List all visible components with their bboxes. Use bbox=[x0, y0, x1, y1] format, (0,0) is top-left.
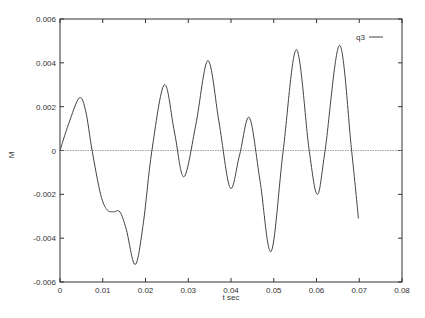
legend-label-q3: q3 bbox=[356, 33, 365, 42]
y-tick-label: -0.002 bbox=[33, 190, 56, 199]
y-tick-label: -0.004 bbox=[33, 234, 56, 243]
y-tick-label: 0.006 bbox=[36, 15, 57, 24]
x-axis-ticks: 00.010.020.030.040.050.060.070.08 bbox=[58, 19, 411, 295]
x-tick-label: 0.03 bbox=[180, 286, 196, 295]
legend: q3 bbox=[356, 33, 383, 42]
x-tick-label: 0.02 bbox=[138, 286, 154, 295]
x-tick-label: 0 bbox=[58, 286, 63, 295]
x-tick-label: 0.01 bbox=[95, 286, 111, 295]
y-axis-label: M bbox=[7, 151, 16, 158]
y-axis-ticks: 0.0060.0040.0020-0.002-0.004-0.006 bbox=[33, 15, 402, 287]
x-tick-label: 0.05 bbox=[266, 286, 282, 295]
y-tick-label: 0 bbox=[52, 147, 57, 156]
x-axis-label: t sec bbox=[223, 293, 240, 302]
line-chart: 0.0060.0040.0020-0.002-0.004-0.006 00.01… bbox=[0, 0, 425, 318]
x-tick-label: 0.06 bbox=[309, 286, 325, 295]
x-tick-label: 0.07 bbox=[351, 286, 367, 295]
y-tick-label: 0.004 bbox=[36, 59, 57, 68]
y-tick-label: 0.002 bbox=[36, 103, 57, 112]
x-tick-label: 0.08 bbox=[394, 286, 410, 295]
series-q3-line bbox=[60, 45, 358, 264]
y-tick-label: -0.006 bbox=[33, 278, 56, 287]
